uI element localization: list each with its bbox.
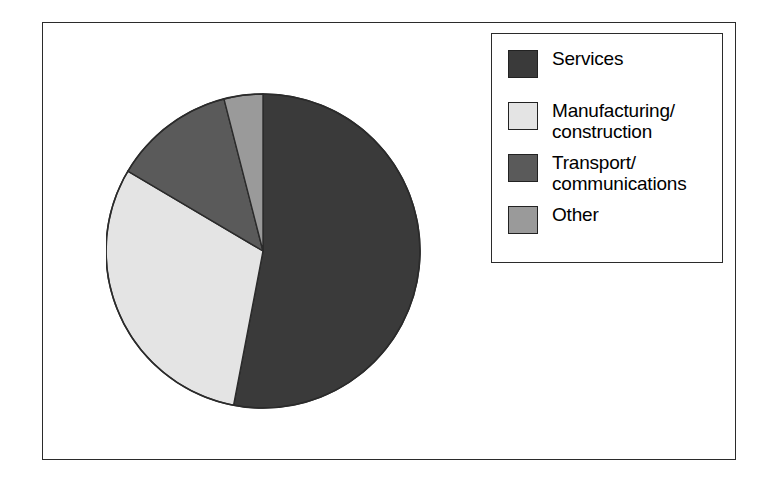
legend-swatch-other — [508, 206, 538, 234]
legend-label-transport-communications: Transport/ communications — [552, 152, 686, 194]
legend-label-manufacturing-construction: Manufacturing/ construction — [552, 100, 675, 142]
legend-label-services: Services — [552, 48, 623, 69]
legend-swatch-services — [508, 50, 538, 78]
legend-item-transport-communications[interactable]: Transport/ communications — [508, 152, 722, 204]
chart-legend: Services Manufacturing/ construction Tra… — [491, 33, 723, 263]
legend-item-other[interactable]: Other — [508, 204, 722, 256]
pie-slice-group — [106, 94, 420, 408]
legend-item-services[interactable]: Services — [508, 48, 722, 100]
pie-chart — [106, 72, 446, 437]
figure-frame: Services Manufacturing/ construction Tra… — [42, 22, 736, 460]
legend-swatch-manufacturing-construction — [508, 102, 538, 130]
legend-item-manufacturing-construction[interactable]: Manufacturing/ construction — [508, 100, 722, 152]
pie-chart-svg — [106, 72, 446, 437]
legend-label-other: Other — [552, 204, 599, 225]
figure-root: Services Manufacturing/ construction Tra… — [0, 0, 770, 481]
legend-swatch-transport-communications — [508, 154, 538, 182]
